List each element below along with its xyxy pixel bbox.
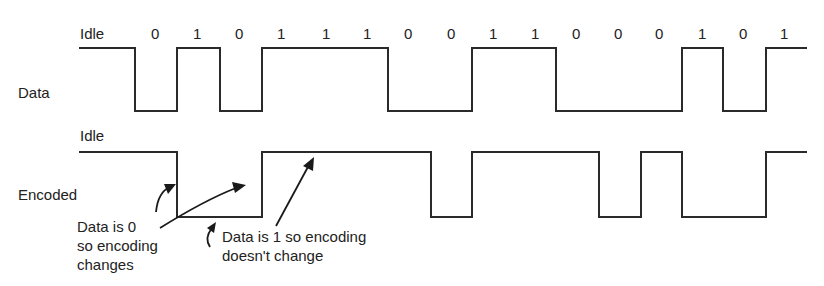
zero-note: Data is 0 so encoding changes bbox=[77, 218, 158, 273]
arrow-to-high-segment bbox=[276, 165, 309, 226]
data-row-label: Data bbox=[18, 84, 50, 101]
bit-label: 1 bbox=[322, 25, 330, 42]
bit-label: 0 bbox=[572, 25, 580, 42]
one-note-line-1: Data is 1 so encoding bbox=[222, 228, 366, 245]
nrzi-encoding-diagram: Idle Data Idle Encoded 0 1 0 1 1 1 0 0 1… bbox=[0, 0, 824, 286]
data-waveform bbox=[79, 48, 807, 111]
data-idle-label: Idle bbox=[80, 25, 104, 42]
bit-label: 0 bbox=[739, 25, 747, 42]
zero-note-line-2: so encoding bbox=[77, 237, 158, 254]
bit-label: 1 bbox=[531, 25, 539, 42]
one-note-line-2: doesn't change bbox=[222, 247, 323, 264]
arrow-to-low-segment bbox=[160, 188, 236, 228]
encoded-idle-label: Idle bbox=[80, 127, 104, 144]
bit-label: 1 bbox=[780, 25, 788, 42]
zero-note-line-1: Data is 0 bbox=[77, 218, 136, 235]
bit-label: 1 bbox=[277, 25, 285, 42]
arrowhead-icon bbox=[207, 222, 216, 233]
bit-label: 0 bbox=[151, 25, 159, 42]
bit-label: 0 bbox=[614, 25, 622, 42]
bit-label: 1 bbox=[489, 25, 497, 42]
one-note: Data is 1 so encoding doesn't change bbox=[222, 228, 366, 264]
bit-label: 1 bbox=[363, 25, 371, 42]
encoded-waveform bbox=[79, 152, 807, 217]
arrowhead-icon bbox=[303, 157, 314, 171]
zero-note-line-3: changes bbox=[77, 256, 134, 273]
bit-label: 0 bbox=[447, 25, 455, 42]
bit-label: 0 bbox=[404, 25, 412, 42]
arrowhead-icon bbox=[232, 182, 246, 193]
bit-label: 0 bbox=[235, 25, 243, 42]
bit-label: 1 bbox=[193, 25, 201, 42]
bit-labels: 0 1 0 1 1 1 0 0 1 1 0 0 0 1 0 1 bbox=[151, 25, 788, 42]
encoded-row-label: Encoded bbox=[18, 186, 77, 203]
bit-label: 1 bbox=[698, 25, 706, 42]
bit-label: 0 bbox=[655, 25, 663, 42]
